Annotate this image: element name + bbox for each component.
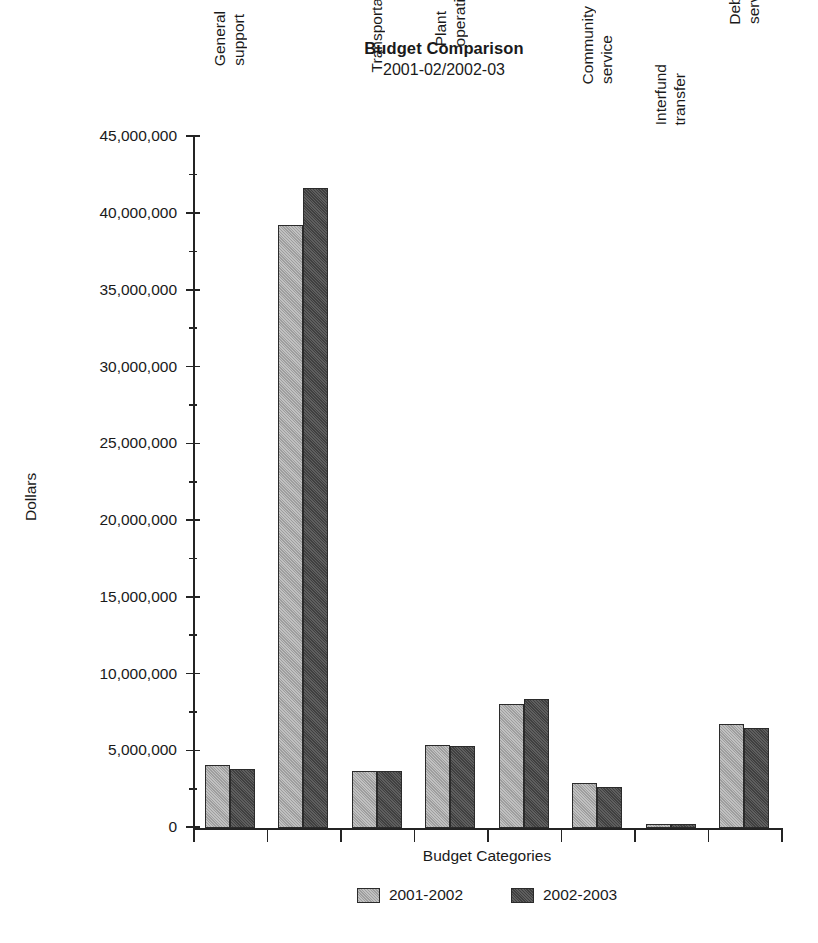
x-tick: [414, 828, 416, 842]
x-category-label-line: service: [598, 35, 616, 84]
legend-item[interactable]: 2002-2003: [511, 886, 617, 904]
y-tick-label: 5,000,000: [108, 743, 177, 759]
plot-area: 05,000,00010,000,00015,000,00020,000,000…: [193, 137, 781, 828]
bar-group: Transportation: [352, 137, 402, 828]
y-tick: 45,000,000: [186, 135, 200, 137]
legend-label: 2002-2003: [543, 886, 617, 904]
x-tick: [561, 828, 563, 842]
legend-label: 2001-2002: [389, 886, 463, 904]
x-tick: [781, 828, 783, 842]
chart-title-block: Budget Comparison 2001-02/2002-03: [0, 38, 818, 81]
y-tick-minor: [189, 711, 197, 713]
x-tick: [267, 828, 269, 842]
bar: [524, 699, 549, 828]
legend-swatch: [511, 888, 534, 903]
y-tick-label: 40,000,000: [99, 205, 177, 221]
y-tick-label: 15,000,000: [99, 589, 177, 605]
y-tick: 25,000,000: [186, 443, 200, 445]
x-category-label-line: service: [745, 0, 763, 25]
bar-group: Employeebenefits: [499, 137, 549, 828]
bar-group: Generalsupport: [205, 137, 255, 828]
x-category-label-line: Plant: [432, 11, 450, 46]
bar: [499, 704, 524, 828]
x-category-label-line: support: [230, 14, 248, 66]
bar: [205, 765, 230, 828]
bar: [425, 745, 450, 828]
y-tick-minor: [189, 558, 197, 560]
bar: [597, 787, 622, 828]
bar: [278, 225, 303, 828]
y-tick-minor: [189, 251, 197, 253]
x-category-label-line: transfer: [671, 73, 689, 126]
x-category-label-line: Community: [579, 6, 597, 84]
bar: [352, 771, 377, 828]
x-category-label-line: General: [211, 11, 229, 66]
chart-legend: 2001-20022002-2003: [193, 886, 781, 904]
bar-group: Plantoperations: [425, 137, 475, 828]
y-axis-line: [193, 137, 195, 828]
bar: [230, 769, 255, 828]
bar-group: Communityservice: [572, 137, 622, 828]
y-tick-minor: [189, 481, 197, 483]
x-tick: [340, 828, 342, 842]
y-tick: 10,000,000: [186, 673, 200, 675]
y-tick-label: 10,000,000: [99, 666, 177, 682]
y-tick-minor: [189, 788, 197, 790]
y-tick-label: 0: [168, 819, 177, 835]
x-category-label-line: operations: [451, 0, 469, 46]
y-tick: 35,000,000: [186, 289, 200, 291]
x-tick: [487, 828, 489, 842]
y-tick-label: 20,000,000: [99, 512, 177, 528]
y-tick-label: 25,000,000: [99, 436, 177, 452]
bar: [450, 746, 475, 828]
y-tick-minor: [189, 327, 197, 329]
legend-item[interactable]: 2001-2002: [357, 886, 463, 904]
x-tick: [634, 828, 636, 842]
chart-subtitle: 2001-02/2002-03: [70, 59, 818, 81]
y-tick-label: 45,000,000: [99, 128, 177, 144]
bar: [572, 783, 597, 828]
y-tick-minor: [189, 404, 197, 406]
legend-swatch: [357, 888, 380, 903]
bar: [744, 728, 769, 828]
bar-group: Debtservice: [719, 137, 769, 828]
y-tick-label: 30,000,000: [99, 359, 177, 375]
bar-group: Interfundtransfer: [646, 137, 696, 828]
x-category-label-line: Transportation: [368, 0, 386, 72]
bar: [671, 824, 696, 828]
budget-comparison-chart: Budget Comparison 2001-02/2002-03 Dollar…: [0, 0, 818, 943]
y-tick-minor: [189, 174, 197, 176]
bar: [377, 771, 402, 828]
bar: [719, 724, 744, 828]
y-tick: 5,000,000: [186, 750, 200, 752]
y-tick-minor: [189, 634, 197, 636]
x-category-label-line: Interfund: [652, 64, 670, 125]
bar: [303, 188, 328, 828]
x-axis-title: Budget Categories: [193, 847, 781, 865]
y-tick: 20,000,000: [186, 519, 200, 521]
bar: [646, 824, 671, 828]
bar-group: Instruction: [278, 137, 328, 828]
y-axis-title: Dollars: [22, 437, 46, 557]
x-tick: [193, 828, 195, 842]
y-tick-label: 35,000,000: [99, 282, 177, 298]
y-tick: 40,000,000: [186, 212, 200, 214]
y-tick: 30,000,000: [186, 366, 200, 368]
x-category-label-line: Debt: [726, 0, 744, 25]
x-tick: [708, 828, 710, 842]
y-tick: 15,000,000: [186, 596, 200, 598]
